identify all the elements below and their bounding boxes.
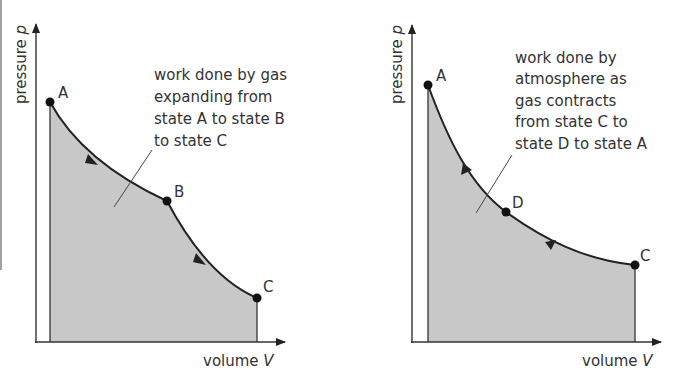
pv-diagrams-figure: A B C work done by gas expanding from st… [0,0,678,386]
right-label-c: C [640,247,650,265]
right-point-a [424,81,433,90]
left-x-axis-label: volume V [203,352,275,370]
left-pv-diagram: A B C work done by gas expanding from st… [12,24,292,370]
right-x-axis-label: volume V [582,352,654,370]
right-point-c [631,261,640,270]
right-label-d: D [512,194,524,212]
left-point-a [46,98,55,107]
right-label-a: A [436,67,447,85]
left-annotation: work done by gas expanding from state A … [154,66,292,150]
right-y-axis-label: pressure p [388,25,406,104]
right-annotation: work done by atmosphere as gas contracts… [515,49,648,153]
left-label-b: B [174,183,184,201]
page-edge [0,0,2,270]
left-y-axis-label: pressure p [12,25,30,104]
right-point-d [502,208,511,217]
left-label-a: A [58,84,69,102]
right-pv-diagram: A D C work done by atmosphere as gas con… [388,25,661,370]
left-label-c: C [263,278,273,296]
left-point-c [253,294,262,303]
left-point-b [163,197,172,206]
